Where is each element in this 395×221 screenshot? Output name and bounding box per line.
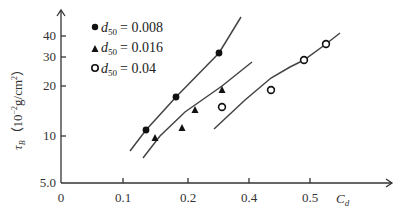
data-point xyxy=(323,41,330,48)
y-tick-label: 30 xyxy=(43,49,56,64)
data-point xyxy=(152,134,159,141)
x-axis-label: Cd xyxy=(336,191,350,208)
data-point xyxy=(219,104,226,111)
legend-item: d50= 0.016 xyxy=(92,40,163,57)
y-tick-label: 20 xyxy=(43,78,56,93)
data-point xyxy=(179,124,186,131)
open-circle-icon xyxy=(92,65,98,71)
x-tick-label: 0.5 xyxy=(302,190,318,205)
svg-text:d50= 0.04: d50= 0.04 xyxy=(101,61,156,78)
legend: d50= 0.008 d50= 0.016 d50= 0.04 xyxy=(92,20,163,78)
legend-item: d50= 0.04 xyxy=(92,61,156,78)
chart: 0 0.1 0.2 0.4 0.5 Cd 5.0 10 20 30 40 τB（… xyxy=(0,0,395,221)
svg-text:d50= 0.016: d50= 0.016 xyxy=(101,40,163,57)
filled-triangle-icon xyxy=(92,45,99,52)
y-tick-labels: 5.0 10 20 30 40 xyxy=(40,28,56,190)
fit-line-d50-0016 xyxy=(143,62,252,158)
fit-lines xyxy=(130,17,340,158)
data-point xyxy=(301,57,308,64)
filled-circle-icon xyxy=(92,24,98,30)
fit-line-d50-004 xyxy=(214,33,340,129)
data-point xyxy=(216,50,223,57)
y-tick-label: 5.0 xyxy=(40,175,56,190)
x-tick-label: 0.2 xyxy=(180,190,196,205)
data-point xyxy=(143,127,150,134)
x-tick-labels: 0 0.1 0.2 0.4 0.5 xyxy=(58,190,318,205)
x-tick-label: 0 xyxy=(58,190,65,205)
data-point xyxy=(268,87,275,94)
x-tick-label: 0.1 xyxy=(115,190,131,205)
y-tick-label: 10 xyxy=(43,128,56,143)
x-tick-label: 0.4 xyxy=(241,190,258,205)
y-axis-label: τB（10−2g/cm2） xyxy=(10,63,27,150)
legend-item: d50= 0.008 xyxy=(92,20,163,37)
data-point xyxy=(173,94,180,101)
y-tick-label: 40 xyxy=(43,28,56,43)
svg-text:d50= 0.008: d50= 0.008 xyxy=(101,20,163,37)
